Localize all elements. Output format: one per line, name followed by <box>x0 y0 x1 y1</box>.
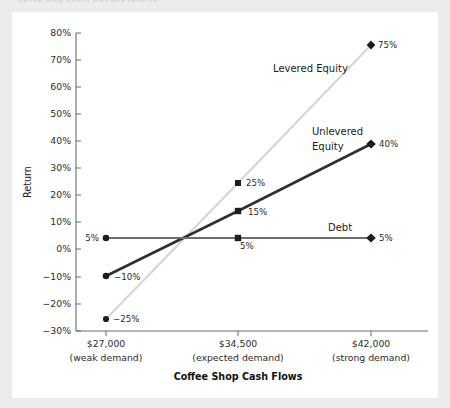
y-tick-50: 50% <box>50 108 71 119</box>
label-unlevered-weak: −10% <box>114 272 140 282</box>
y-tick-10: 10% <box>50 216 71 227</box>
y-axis-title: Return <box>22 166 33 198</box>
x-tick-2-note: (expected demand) <box>192 352 283 363</box>
label-levered-strong: 75% <box>378 40 397 50</box>
y-tick-80: 80% <box>50 27 71 38</box>
y-tick-30: 30% <box>50 162 71 173</box>
point-levered-weak <box>103 316 109 322</box>
label-debt-expected: 5% <box>240 241 254 251</box>
x-tick-1-value: $27,000 <box>87 338 126 349</box>
x-tick-2-value: $34,500 <box>219 338 258 349</box>
point-debt-strong <box>366 233 376 242</box>
x-tick-3-note: (strong demand) <box>332 352 410 363</box>
annotation-unlevered-equity-line2: Equity <box>312 141 344 152</box>
x-axis <box>76 331 428 336</box>
point-unlevered-weak <box>103 273 110 280</box>
y-axis <box>76 33 81 331</box>
annotation-debt: Debt <box>328 222 352 233</box>
x-tick-3-value: $42,000 <box>352 338 391 349</box>
returns-line-chart: 80% 70% 60% 50% 40% 30% 20% 10% 0% −10% … <box>0 0 450 408</box>
y-tick-60: 60% <box>50 81 71 92</box>
series-debt: 5% 5% 5% <box>85 233 392 251</box>
y-tick-labels: 80% 70% 60% 50% 40% 30% 20% 10% 0% −10% … <box>43 27 72 336</box>
label-debt-weak: 5% <box>85 233 99 243</box>
figure-root: Coffee Shop Cash Flows and Returns <box>0 0 450 408</box>
y-tick-neg10: −10% <box>43 271 72 282</box>
y-tick-70: 70% <box>50 54 71 65</box>
x-axis-title: Coffee Shop Cash Flows <box>174 371 303 382</box>
point-unlevered-expected <box>235 208 241 214</box>
point-debt-weak <box>103 235 110 242</box>
label-levered-expected: 25% <box>246 178 265 188</box>
annotation-levered-equity: Levered Equity <box>273 63 348 74</box>
series-unlevered-equity: −10% 15% 40% <box>103 139 398 282</box>
y-tick-40: 40% <box>50 135 71 146</box>
y-tick-neg30: −30% <box>43 325 72 336</box>
x-tick-labels: $27,000 (weak demand) $34,500 (expected … <box>70 338 410 363</box>
y-tick-0: 0% <box>56 243 71 254</box>
annotation-unlevered-equity-line1: Unlevered <box>312 126 363 137</box>
y-tick-neg20: −20% <box>43 298 72 309</box>
x-tick-1-note: (weak demand) <box>70 352 143 363</box>
point-unlevered-strong <box>366 139 376 148</box>
label-debt-strong: 5% <box>379 233 393 243</box>
y-tick-20: 20% <box>50 189 71 200</box>
series-levered-equity: −25% 25% 75% <box>103 40 397 324</box>
label-unlevered-expected: 15% <box>248 207 267 217</box>
label-levered-weak: −25% <box>113 314 139 324</box>
label-unlevered-strong: 40% <box>379 139 398 149</box>
point-levered-expected <box>235 180 241 186</box>
